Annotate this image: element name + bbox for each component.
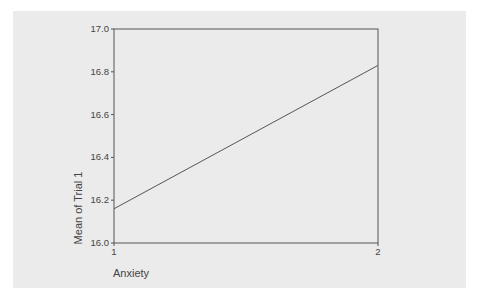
y-tick-label: 16.8 xyxy=(69,67,109,77)
y-tick-label: 16.4 xyxy=(69,152,109,162)
y-tick-label: 17.0 xyxy=(69,24,109,34)
x-tick-label: 1 xyxy=(104,247,124,257)
x-tick-label: 2 xyxy=(368,247,388,257)
plot-frame xyxy=(114,29,378,243)
data-series xyxy=(114,65,378,208)
x-axis-title: Anxiety xyxy=(113,267,149,279)
y-axis-title: Mean of Trial 1 xyxy=(72,172,84,245)
y-tick-label: 16.6 xyxy=(69,110,109,120)
plot-frame-rect xyxy=(114,29,378,243)
series-line xyxy=(114,65,378,208)
